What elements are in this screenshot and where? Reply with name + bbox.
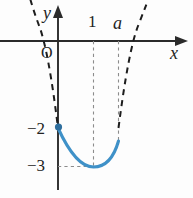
dashed-parabola-left-branch	[25, 0, 58, 128]
x-axis-label: x	[170, 44, 178, 62]
y-axis-arrowhead	[53, 5, 63, 18]
endpoint-dot-y-intercept	[55, 123, 62, 130]
parabola-figure: y x O 1 a −2 −3	[0, 0, 193, 198]
x-tick-label-a: a	[113, 14, 122, 32]
solid-parabola-segment	[58, 128, 119, 167]
dashed-parabola-right-branch	[119, 0, 154, 128]
y-tick-label-negative-two: −2	[27, 120, 45, 137]
y-tick-label-negative-three: −3	[27, 157, 45, 174]
y-axis-label: y	[43, 4, 51, 22]
origin-label: O	[41, 45, 53, 61]
x-tick-label-one: 1	[88, 13, 97, 30]
